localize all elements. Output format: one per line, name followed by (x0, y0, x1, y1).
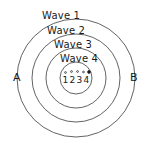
center-dot-3 (77, 71, 79, 73)
center-dot-5-filled (88, 71, 91, 74)
center-number-4: 4 (83, 76, 90, 85)
center-number-2: 2 (69, 76, 76, 85)
center-dot-2 (71, 71, 73, 73)
center-dot-1 (65, 72, 67, 74)
center-number-row: 1234 (62, 76, 90, 85)
point-label-a: A (13, 72, 21, 83)
wave-label-1: Wave 1 (42, 11, 80, 21)
wave-diagram: Wave 1 Wave 2 Wave 3 Wave 4 A B 1234 (0, 0, 151, 144)
wave-label-4: Wave 4 (60, 54, 98, 64)
wave-label-2: Wave 2 (47, 26, 85, 36)
center-dot-4 (83, 71, 85, 73)
center-dots (65, 71, 91, 74)
center-number-1: 1 (62, 76, 69, 85)
center-number-3: 3 (76, 76, 83, 85)
wave-circles-graphic (0, 0, 151, 144)
wave-label-3: Wave 3 (54, 40, 92, 50)
point-label-b: B (130, 72, 138, 83)
